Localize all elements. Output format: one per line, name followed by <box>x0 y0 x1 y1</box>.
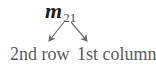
arrow-to-row-icon <box>49 22 64 41</box>
column-label: 1st column <box>77 44 156 65</box>
row-label: 2nd row <box>10 44 70 65</box>
arrow-to-column-icon <box>71 22 87 41</box>
